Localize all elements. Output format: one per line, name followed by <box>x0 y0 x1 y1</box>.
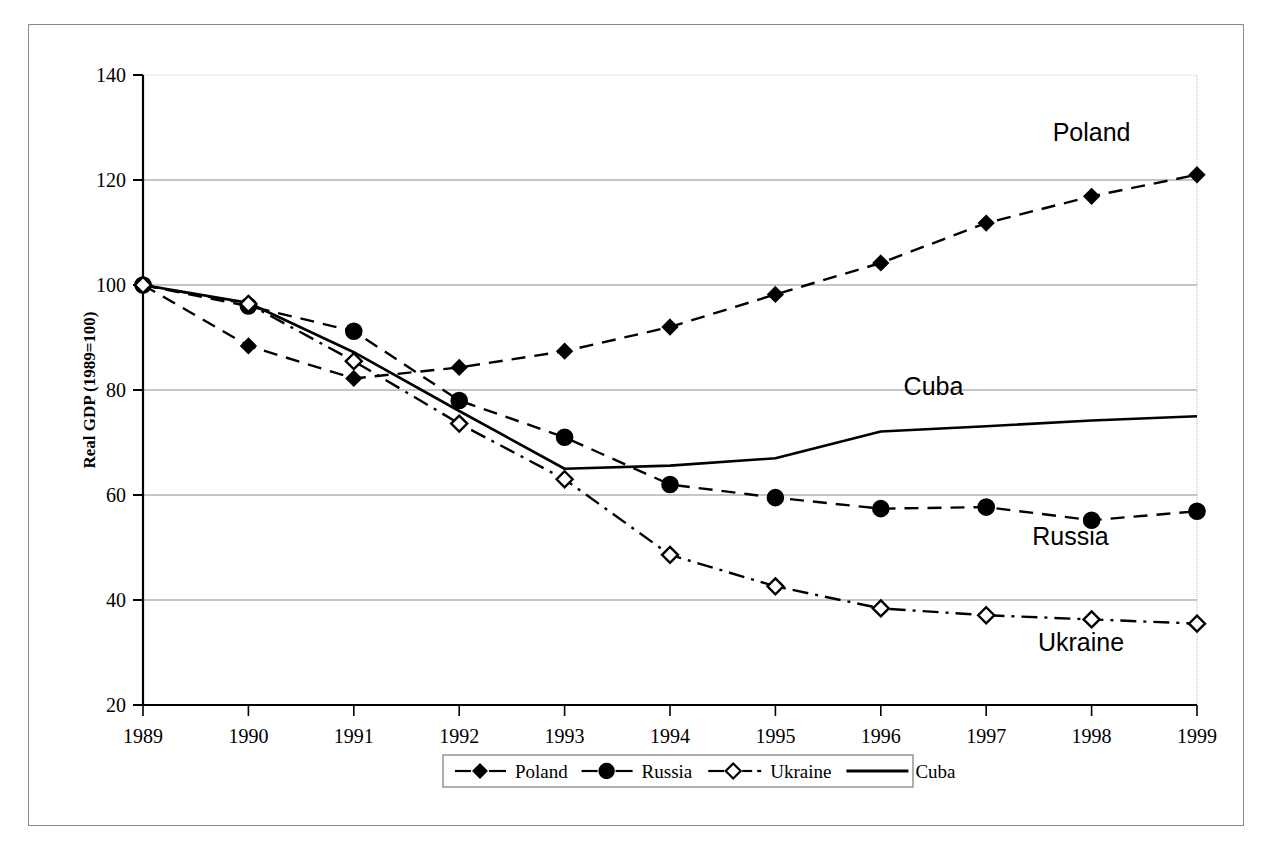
y-tick-label: 80 <box>106 379 126 401</box>
data-point-ukraine-1993 <box>557 471 573 487</box>
x-tick-label: 1999 <box>1177 725 1217 747</box>
series-line-ukraine <box>143 285 1197 624</box>
figure-container: g 14012010080604020 19891990199119921993… <box>0 0 1264 847</box>
legend-label-poland: Poland <box>515 761 568 782</box>
y-tick-label: 20 <box>106 694 126 716</box>
legend-box: PolandRussiaUkraineCuba <box>443 755 956 787</box>
y-tick-label: 120 <box>96 169 126 191</box>
x-tick-labels: 1989199019911992199319941995199619971998… <box>123 725 1217 747</box>
data-point-poland-1996 <box>873 255 888 270</box>
x-tick-label: 1993 <box>545 725 585 747</box>
x-tick-label: 1989 <box>123 725 163 747</box>
data-point-poland-1997 <box>979 216 994 231</box>
y-tick-label: 140 <box>96 64 126 86</box>
data-point-russia-1999 <box>1189 503 1205 519</box>
x-tick-label: 1996 <box>861 725 901 747</box>
x-tick-label: 1990 <box>228 725 268 747</box>
gdp-line-chart: 14012010080604020 1989199019911992199319… <box>0 0 1264 847</box>
series-markers <box>135 167 1205 631</box>
data-point-russia-1993 <box>557 429 573 445</box>
data-point-ukraine-1998 <box>1084 611 1100 627</box>
data-point-russia-1994 <box>662 477 678 493</box>
y-axis-title: Real GDP (1989=100) <box>80 311 99 468</box>
data-point-russia-1992 <box>451 393 467 409</box>
data-point-russia-1996 <box>873 501 889 517</box>
series-annotation-cuba: Cuba <box>904 372 964 400</box>
gridlines <box>143 75 1197 705</box>
x-axis-ticks <box>143 705 1197 716</box>
series-line-poland <box>143 175 1197 379</box>
data-point-poland-1991 <box>346 371 361 386</box>
y-axis-title-text: Real GDP (1989=100) <box>80 311 99 468</box>
y-tick-labels: 14012010080604020 <box>96 64 126 716</box>
data-point-poland-1992 <box>452 360 467 375</box>
x-tick-label: 1998 <box>1072 725 1112 747</box>
data-point-ukraine-1996 <box>873 600 889 616</box>
data-point-ukraine-1994 <box>662 547 678 563</box>
x-tick-label: 1994 <box>650 725 690 747</box>
legend-label-russia: Russia <box>642 761 693 782</box>
series-annotation-ukraine: Ukraine <box>1038 628 1124 656</box>
y-tick-label: 100 <box>96 274 126 296</box>
y-axis-ticks <box>133 75 143 705</box>
data-point-russia-1995 <box>767 490 783 506</box>
data-point-ukraine-1997 <box>978 607 994 623</box>
data-point-ukraine-1995 <box>767 578 783 594</box>
data-point-poland-1994 <box>663 320 678 335</box>
x-tick-label: 1995 <box>755 725 795 747</box>
data-point-poland-1998 <box>1084 189 1099 204</box>
legend-label-ukraine: Ukraine <box>770 761 831 782</box>
data-point-poland-1990 <box>241 338 256 353</box>
x-tick-label: 1991 <box>334 725 374 747</box>
y-tick-label: 40 <box>106 589 126 611</box>
series-annotation-poland: Poland <box>1053 118 1131 146</box>
data-point-poland-1995 <box>768 287 783 302</box>
x-tick-label: 1992 <box>439 725 479 747</box>
data-point-russia-1991 <box>346 323 362 339</box>
legend-label-cuba: Cuba <box>915 761 956 782</box>
series-line-cuba <box>143 285 1197 469</box>
data-point-russia-1997 <box>978 499 994 515</box>
data-point-poland-1993 <box>557 344 572 359</box>
series-annotation-russia: Russia <box>1032 522 1109 550</box>
data-point-ukraine-1992 <box>451 416 467 432</box>
data-point-ukraine-1999 <box>1189 616 1205 632</box>
y-tick-label: 60 <box>106 484 126 506</box>
x-tick-label: 1997 <box>966 725 1006 747</box>
